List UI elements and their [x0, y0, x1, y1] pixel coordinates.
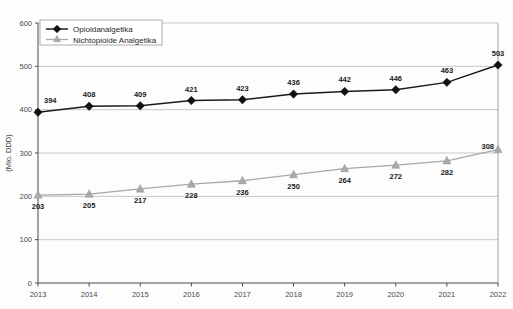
y-tick-label-300: 300 — [19, 149, 32, 158]
data-label-opioid-2021: 463 — [441, 66, 454, 75]
y-tick-label-200: 200 — [19, 192, 32, 201]
x-tick-label-2016: 2016 — [183, 290, 200, 299]
y-tick-label-400: 400 — [19, 105, 32, 114]
data-label-nichtopioid-2016: 228 — [185, 191, 198, 200]
legend-label-nichtopioide-analgetika: Nichtopioide Analgetika — [73, 36, 157, 45]
data-label-nichtopioid-2019: 264 — [338, 176, 351, 185]
data-label-opioid-2018: 436 — [287, 78, 300, 87]
data-label-opioid-2020: 446 — [390, 74, 403, 83]
data-label-opioid-2015: 409 — [134, 90, 147, 99]
data-label-nichtopioid-2017: 236 — [236, 188, 249, 197]
data-label-nichtopioid-2015: 217 — [134, 196, 147, 205]
y-axis-title: (Mio. DDD) — [4, 134, 13, 172]
chart-legend: Opioidanalgetika Nichtopioide Analgetika — [40, 20, 162, 45]
data-label-opioid-2019: 442 — [338, 75, 351, 84]
y-tick-label-100: 100 — [19, 235, 32, 244]
x-tick-label-2022: 2022 — [490, 290, 507, 299]
x-tick-label-2018: 2018 — [285, 290, 302, 299]
data-label-nichtopioid-2014: 205 — [83, 201, 96, 210]
x-tick-label-2020: 2020 — [387, 290, 404, 299]
x-tick-label-2014: 2014 — [81, 290, 98, 299]
data-label-nichtopioid-2020: 272 — [390, 172, 403, 181]
legend-label-opioidanalgetika: Opioidanalgetika — [73, 25, 133, 34]
data-label-opioid-2017: 423 — [236, 84, 249, 93]
data-label-nichtopioid-2022: 308 — [481, 142, 494, 151]
data-label-opioid-2014: 408 — [83, 90, 96, 99]
data-label-opioid-2013: 394 — [44, 96, 57, 105]
x-tick-label-2013: 2013 — [30, 290, 47, 299]
y-tick-label-500: 500 — [19, 62, 32, 71]
data-label-opioid-2016: 421 — [185, 85, 198, 94]
data-label-nichtopioid-2013: 203 — [32, 202, 45, 211]
x-tick-label-2019: 2019 — [336, 290, 353, 299]
y-tick-label-600: 600 — [19, 19, 32, 28]
y-tick-label-0: 0 — [28, 279, 32, 288]
chart-container: 0100200300400500600 20132014201520162017… — [0, 0, 513, 309]
data-label-nichtopioid-2018: 250 — [287, 182, 300, 191]
x-tick-label-2017: 2017 — [234, 290, 251, 299]
line-chart: 0100200300400500600 20132014201520162017… — [0, 0, 513, 309]
data-label-nichtopioid-2021: 282 — [441, 168, 454, 177]
data-label-opioid-2022: 503 — [492, 49, 505, 58]
x-tick-label-2021: 2021 — [439, 290, 456, 299]
x-tick-label-2015: 2015 — [132, 290, 149, 299]
